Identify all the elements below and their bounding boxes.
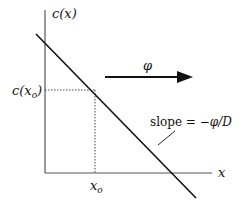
- x-axis-label: x: [218, 165, 226, 180]
- concentration-diagram: c(x) x c(xo) xo φ slope = −φ/D: [0, 0, 244, 203]
- flux-label: φ: [143, 58, 153, 73]
- slope-label: slope = −φ/D: [150, 115, 232, 129]
- point-x-label: xo: [90, 178, 103, 195]
- slope-leader-line: [158, 131, 175, 145]
- y-axis-label: c(x): [52, 6, 77, 21]
- flux-arrow-head-icon: [177, 71, 193, 83]
- point-x-subscript: o: [97, 185, 103, 195]
- point-y-label: c(xo): [12, 83, 42, 100]
